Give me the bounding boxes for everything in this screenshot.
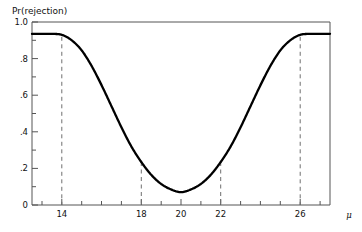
y-tick-label-0.6: .6 — [20, 90, 28, 100]
y-tick-label-0.2: .2 — [20, 163, 28, 173]
y-tick-label-0: 0 — [23, 200, 28, 210]
x-tick-label-22: 22 — [215, 209, 226, 219]
y-tick-label-0.4: .4 — [20, 127, 28, 137]
power-function-figure: Pr(rejection) 1.0 .8 — [0, 0, 362, 232]
x-tick-label-18: 18 — [136, 209, 147, 219]
x-axis-tick-labels: 14 18 20 22 26 — [56, 209, 305, 219]
x-axis-major-ticks — [62, 199, 300, 205]
y-axis-title: Pr(rejection) — [12, 6, 67, 16]
plot-frame — [32, 22, 330, 205]
y-axis-minor-ticks — [32, 40, 36, 186]
reference-lines — [62, 37, 300, 205]
x-tick-label-20: 20 — [176, 209, 187, 219]
x-tick-label-26: 26 — [295, 209, 306, 219]
y-tick-label-1.0: 1.0 — [14, 17, 28, 27]
power-curve-line — [32, 34, 330, 192]
plot-canvas: Pr(rejection) 1.0 .8 — [0, 0, 362, 232]
x-tick-label-14: 14 — [56, 209, 67, 219]
x-axis-title: μ — [346, 210, 352, 220]
y-tick-label-0.8: .8 — [20, 54, 28, 64]
y-axis-tick-labels: 1.0 .8 .6 .4 .2 0 — [14, 17, 28, 210]
